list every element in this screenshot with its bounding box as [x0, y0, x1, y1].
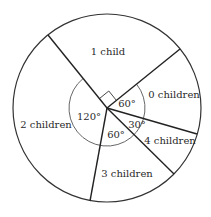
angle-3-children: 60°: [107, 129, 125, 140]
label-3-children: 3 children: [101, 168, 153, 179]
right-angle-marker: [99, 91, 116, 100]
angle-0-children: 60°: [118, 98, 136, 109]
label-1-child: 1 child: [91, 46, 126, 57]
angle-4-children: 30°: [128, 119, 146, 130]
label-4-children: 4 children: [144, 135, 196, 146]
label-2-children: 2 children: [20, 119, 72, 130]
label-0-children: 0 children: [148, 89, 200, 100]
pie-chart: 1 child 0 children 2 children 4 children…: [0, 0, 211, 217]
angle-2-children: 120°: [77, 111, 101, 122]
